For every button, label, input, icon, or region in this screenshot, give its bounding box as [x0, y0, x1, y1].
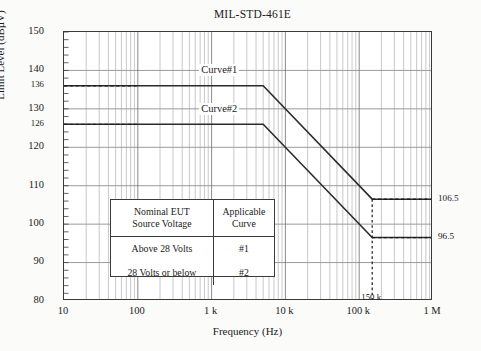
- curve-label-2: Curve#2: [199, 103, 239, 115]
- legend-cell-voltage-1: Above 28 Volts: [111, 237, 213, 262]
- legend-header-line2: Source Voltage: [132, 218, 191, 229]
- y-tick-136: 136: [0, 80, 44, 89]
- x-tick-1k: 1 k: [181, 306, 241, 317]
- x-tick-10k: 10 k: [254, 306, 314, 317]
- y-tick-150: 150: [0, 26, 44, 37]
- legend-table: Nominal EUT Source Voltage Applicable Cu…: [110, 199, 275, 277]
- legend-header-line4: Curve: [232, 218, 256, 229]
- x-tick-100k: 100 k: [328, 306, 388, 317]
- legend-cell-voltage-2: 28 Volts or below: [111, 261, 213, 285]
- legend-header-source-voltage: Nominal EUT Source Voltage: [111, 200, 213, 237]
- chart-title: MIL-STD-461E: [0, 8, 481, 20]
- legend-cell-curve-1: #1: [213, 237, 274, 262]
- y-tick-100: 100: [0, 218, 44, 229]
- y-tick-130: 130: [0, 103, 44, 114]
- x-tick-100: 100: [107, 306, 167, 317]
- legend-header-applicable-curve: Applicable Curve: [213, 200, 274, 237]
- legend-header-line1: Nominal EUT: [134, 206, 190, 217]
- chart-title-text: MIL-STD-461E: [214, 8, 291, 20]
- y-tick-140: 140: [0, 64, 44, 75]
- right-annotation-106.5: 106.5: [438, 194, 459, 203]
- curve-label-1: Curve#1: [199, 64, 239, 76]
- legend-table-grid: Nominal EUT Source Voltage Applicable Cu…: [111, 200, 274, 285]
- y-tick-120: 120: [0, 141, 44, 152]
- x-tick-1M: 1 M: [402, 306, 462, 317]
- x-tick-secondary-150k: 150 k: [341, 293, 401, 302]
- legend-row-1: Above 28 Volts #1: [111, 237, 274, 262]
- x-axis-title: Frequency (Hz): [63, 325, 432, 337]
- y-tick-80: 80: [0, 295, 44, 306]
- legend-cell-curve-2: #2: [213, 261, 274, 285]
- x-tick-10: 10: [33, 306, 93, 317]
- legend-header-line3: Applicable: [222, 206, 265, 217]
- y-tick-90: 90: [0, 256, 44, 267]
- right-annotation-96.5: 96.5: [438, 232, 454, 241]
- legend-header-row: Nominal EUT Source Voltage Applicable Cu…: [111, 200, 274, 237]
- legend-row-2: 28 Volts or below #2: [111, 261, 274, 285]
- chart-root: MIL-STD-461E Limit Level (dBµV) 80901001…: [0, 0, 481, 351]
- y-tick-110: 110: [0, 180, 44, 191]
- y-tick-126: 126: [0, 119, 44, 128]
